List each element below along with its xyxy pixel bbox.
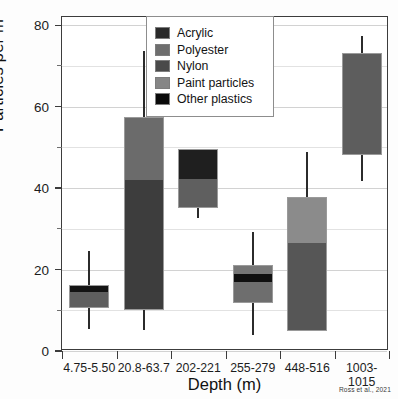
y-tick-minor xyxy=(57,228,62,229)
bar-segment xyxy=(234,274,272,282)
bar-segment xyxy=(179,179,217,208)
bar-box[interactable] xyxy=(342,53,382,156)
bar-segment xyxy=(234,282,272,303)
bar-segment xyxy=(234,265,272,274)
bar-segment xyxy=(288,197,326,243)
legend-item-label: Paint particles xyxy=(177,76,254,90)
bar-box[interactable] xyxy=(287,197,327,331)
y-tick-label: 60 xyxy=(5,99,49,114)
bar-group[interactable] xyxy=(287,17,327,351)
x-category-label: 255-279 xyxy=(226,362,281,376)
legend-swatch-icon xyxy=(155,60,170,72)
y-tick-label: 20 xyxy=(5,262,49,277)
y-tick-major xyxy=(55,350,62,351)
y-tick-major xyxy=(55,187,62,188)
attribution-text: Ross et al., 2021 xyxy=(339,386,391,393)
legend-swatch-icon xyxy=(155,93,170,105)
y-tick-minor xyxy=(57,65,62,66)
bar-segment xyxy=(343,53,381,156)
bar-segment xyxy=(288,243,326,331)
gridline xyxy=(62,270,387,271)
bar-segment xyxy=(70,292,108,307)
legend-item-label: Polyester xyxy=(177,43,228,57)
legend-item[interactable]: Nylon xyxy=(155,58,264,75)
legend-item-label: Acrylic xyxy=(177,26,213,40)
x-category-label: 202-221 xyxy=(171,362,226,376)
bar-box[interactable] xyxy=(124,117,164,310)
legend-swatch-icon xyxy=(155,77,170,89)
y-tick-major xyxy=(55,25,62,26)
legend-swatch-icon xyxy=(155,27,170,39)
bar-box[interactable] xyxy=(233,265,273,302)
chart-legend: AcrylicPolyesterNylonPaint particlesOthe… xyxy=(146,16,274,117)
gridline xyxy=(62,229,387,230)
legend-item[interactable]: Other plastics xyxy=(155,91,264,108)
y-axis-title-text: Particles per m3 xyxy=(0,13,6,132)
x-tick xyxy=(171,351,172,359)
legend-item[interactable]: Acrylic xyxy=(155,25,264,42)
bar-box[interactable] xyxy=(178,149,218,208)
gridline xyxy=(62,351,387,352)
bar-segment xyxy=(179,149,217,179)
y-axis-title: Particles per m3 xyxy=(0,0,7,132)
legend-item-label: Other plastics xyxy=(177,92,252,106)
y-tick-minor xyxy=(57,310,62,311)
y-tick-major xyxy=(55,269,62,270)
bar-segment xyxy=(125,180,163,310)
x-tick xyxy=(62,351,63,359)
bar-segment xyxy=(70,285,108,292)
gridline xyxy=(62,147,387,148)
legend-item[interactable]: Paint particles xyxy=(155,75,264,92)
y-tick-minor xyxy=(57,147,62,148)
x-category-label: 4.75-5.50 xyxy=(62,362,117,376)
x-category-label: 20.8-63.7 xyxy=(117,362,172,376)
bar-group[interactable] xyxy=(342,17,382,351)
y-tick-major xyxy=(55,106,62,107)
bar-box[interactable] xyxy=(69,285,109,308)
legend-item[interactable]: Polyester xyxy=(155,42,264,59)
gridline xyxy=(62,188,387,189)
y-tick-label: 40 xyxy=(5,181,49,196)
legend-item-label: Nylon xyxy=(177,59,208,73)
x-category-label: 448-516 xyxy=(280,362,335,376)
gridline xyxy=(62,310,387,311)
x-tick xyxy=(226,351,227,359)
bar-segment xyxy=(125,117,163,180)
y-tick-label: 80 xyxy=(5,18,49,33)
chart-figure: 0204060804.75-5.5020.8-63.7202-221255-27… xyxy=(0,0,398,399)
y-tick-label: 0 xyxy=(5,344,49,359)
x-tick xyxy=(117,351,118,359)
x-tick xyxy=(335,351,336,359)
x-tick xyxy=(389,351,390,359)
legend-swatch-icon xyxy=(155,44,170,56)
x-tick xyxy=(280,351,281,359)
bar-group[interactable] xyxy=(69,17,109,351)
